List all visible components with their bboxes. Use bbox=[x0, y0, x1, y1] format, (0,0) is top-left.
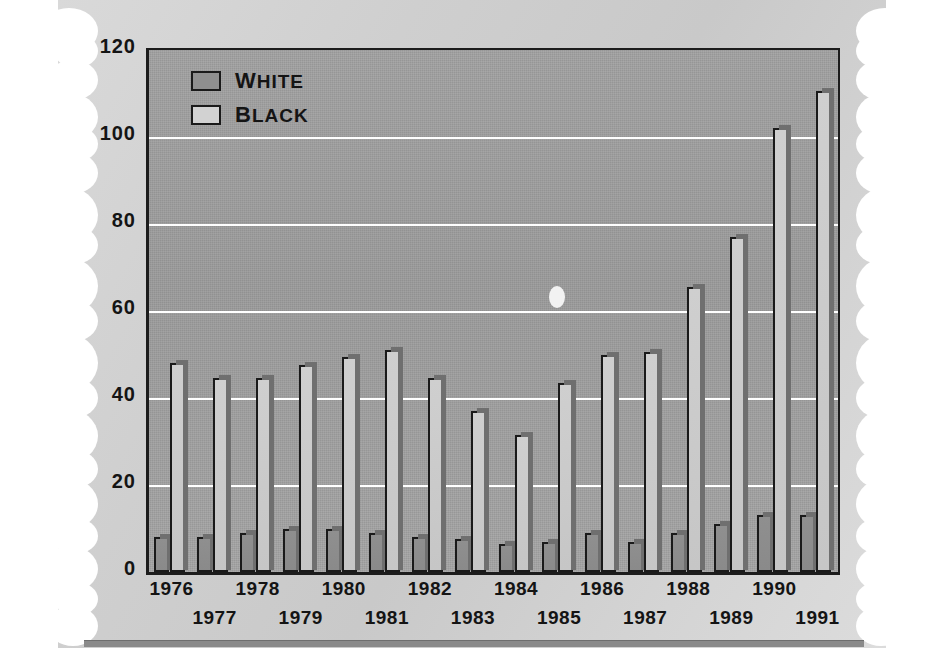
bar-black-1981 bbox=[385, 350, 400, 572]
bar-black-1983 bbox=[471, 411, 486, 572]
y-tick-label: 40 bbox=[80, 383, 136, 406]
bar-white-1980 bbox=[326, 529, 341, 573]
bar-black-1978 bbox=[256, 378, 271, 572]
bar-white-1985 bbox=[542, 542, 557, 572]
chart-plot-area: WHITEBLACK bbox=[146, 48, 840, 575]
x-tick-label: 1979 bbox=[266, 607, 336, 629]
y-tick-label: 120 bbox=[80, 35, 136, 58]
legend-label: BLACK bbox=[235, 102, 309, 128]
chart-legend: WHITEBLACK bbox=[191, 64, 361, 132]
x-tick-label: 1989 bbox=[696, 607, 766, 629]
x-tick-label: 1990 bbox=[739, 578, 809, 600]
bar-black-1979 bbox=[299, 365, 314, 572]
bar-white-1976 bbox=[154, 537, 169, 572]
bar-white-1983 bbox=[455, 539, 470, 572]
bottom-rule bbox=[84, 640, 864, 647]
bar-black-1976 bbox=[170, 363, 185, 572]
y-tick-label: 60 bbox=[80, 296, 136, 319]
y-tick-label: 20 bbox=[80, 470, 136, 493]
x-tick-label: 1988 bbox=[653, 578, 723, 600]
x-tick-label: 1991 bbox=[782, 607, 852, 629]
x-tick-label: 1981 bbox=[352, 607, 422, 629]
legend-label: WHITE bbox=[235, 68, 304, 94]
x-tick-label: 1977 bbox=[180, 607, 250, 629]
x-tick-label: 1982 bbox=[395, 578, 465, 600]
legend-swatch-white bbox=[191, 71, 221, 91]
bar-black-1986 bbox=[601, 355, 616, 573]
legend-swatch-black bbox=[191, 105, 221, 125]
bar-black-1988 bbox=[687, 287, 702, 572]
x-tick-label: 1985 bbox=[524, 607, 594, 629]
y-tick-label: 0 bbox=[80, 557, 136, 580]
bar-black-1984 bbox=[515, 435, 530, 572]
bar-black-1987 bbox=[644, 352, 659, 572]
bar-white-1987 bbox=[628, 542, 643, 572]
bar-white-1988 bbox=[671, 533, 686, 572]
bar-white-1989 bbox=[714, 524, 729, 572]
bar-black-1977 bbox=[213, 378, 228, 572]
x-tick-label: 1986 bbox=[567, 578, 637, 600]
bar-black-1991 bbox=[816, 91, 831, 572]
bar-white-1984 bbox=[499, 544, 514, 572]
bar-black-1985 bbox=[558, 383, 573, 572]
bar-black-1989 bbox=[730, 237, 745, 572]
bar-white-1986 bbox=[585, 533, 600, 572]
bar-white-1978 bbox=[240, 533, 255, 572]
y-tick-label: 80 bbox=[80, 209, 136, 232]
bar-white-1977 bbox=[197, 537, 212, 572]
bar-black-1980 bbox=[342, 357, 357, 572]
bar-white-1991 bbox=[800, 515, 815, 572]
scan-artifact-blob bbox=[549, 286, 565, 308]
bar-white-1982 bbox=[412, 537, 427, 572]
bar-black-1982 bbox=[428, 378, 443, 572]
legend-item-white: WHITE bbox=[191, 64, 361, 98]
bar-black-1990 bbox=[773, 128, 788, 572]
legend-item-black: BLACK bbox=[191, 98, 361, 132]
bar-white-1990 bbox=[757, 515, 772, 572]
x-tick-label: 1976 bbox=[137, 578, 207, 600]
bar-white-1979 bbox=[283, 529, 298, 573]
scanned-page: 120100806040200 WHITEBLACK 1976197719781… bbox=[0, 0, 939, 666]
x-tick-label: 1984 bbox=[481, 578, 551, 600]
bar-white-1981 bbox=[369, 533, 384, 572]
x-tick-label: 1987 bbox=[610, 607, 680, 629]
y-tick-label: 100 bbox=[80, 122, 136, 145]
x-tick-label: 1980 bbox=[309, 578, 379, 600]
x-tick-label: 1983 bbox=[438, 607, 508, 629]
x-tick-label: 1978 bbox=[223, 578, 293, 600]
